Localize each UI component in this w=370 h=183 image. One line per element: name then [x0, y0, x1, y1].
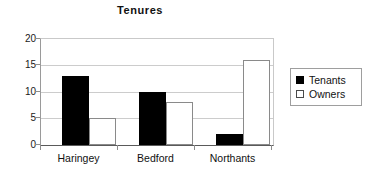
x-axis-tick-mark-0 — [40, 145, 41, 150]
bar-bedford-owners — [166, 102, 193, 145]
y-axis-tick-label-20: 20 — [8, 34, 36, 44]
legend-item-tenants: Tenants — [296, 73, 356, 87]
bar-haringey-tenants — [62, 76, 89, 145]
y-axis-tick-label-10: 10 — [8, 87, 36, 97]
x-axis-tick-mark-1 — [117, 145, 118, 150]
bar-haringey-owners — [89, 118, 116, 145]
legend-label-owners: Owners — [309, 89, 345, 100]
x-axis-tick-mark-2 — [194, 145, 195, 150]
bar-northants-tenants — [216, 134, 243, 145]
x-axis-tick-mark-3 — [271, 145, 272, 150]
plot-area — [40, 38, 274, 146]
bar-northants-owners — [243, 60, 270, 145]
legend-item-owners: Owners — [296, 87, 356, 101]
gridline-15 — [41, 65, 273, 66]
bar-bedford-tenants — [139, 92, 166, 145]
y-axis-tick-label-0: 0 — [8, 140, 36, 150]
legend-label-tenants: Tenants — [309, 75, 346, 86]
bar-chart: Tenures 20 15 10 5 0 Haringey Bedford No… — [0, 0, 370, 183]
x-axis-category-label-haringey: Haringey — [40, 152, 117, 164]
x-axis-category-label-northants: Northants — [194, 152, 271, 164]
legend-swatch-tenants-icon — [296, 76, 304, 84]
y-axis-tick-label-5: 5 — [8, 113, 36, 123]
y-axis-tick-label-15: 15 — [8, 60, 36, 70]
legend-swatch-owners-icon — [296, 90, 304, 98]
x-axis-category-label-bedford: Bedford — [117, 152, 194, 164]
chart-legend: Tenants Owners — [290, 68, 362, 106]
chart-title: Tenures — [0, 4, 280, 16]
